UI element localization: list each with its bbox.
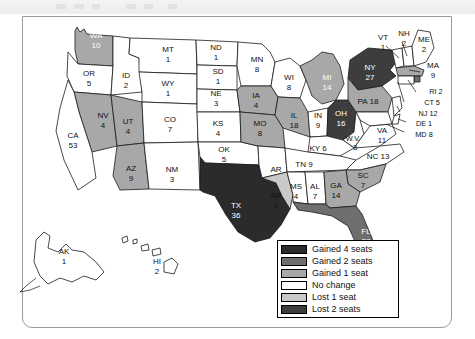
alaska-aleutians bbox=[20, 278, 40, 292]
label-NC: NC 13 bbox=[367, 152, 390, 161]
label-FL-code: FL bbox=[361, 227, 371, 236]
label-MA-code: MA bbox=[427, 61, 440, 70]
state-HI-i1[interactable] bbox=[122, 236, 128, 243]
state-HI-i3[interactable] bbox=[141, 244, 149, 251]
label-SD-code: SD bbox=[212, 67, 223, 76]
label-WV-value: 3 bbox=[353, 143, 357, 152]
state-CT[interactable] bbox=[398, 76, 414, 84]
label-IL-code: IL bbox=[291, 111, 298, 120]
legend-swatch bbox=[281, 269, 307, 278]
label-ME-code: ME bbox=[418, 35, 430, 44]
label-UT-code: UT bbox=[123, 117, 134, 126]
label-AR-code: AR bbox=[270, 191, 281, 200]
label-OR-code: OR bbox=[83, 69, 95, 78]
label-NV-value: 4 bbox=[101, 121, 106, 130]
label-WY-value: 1 bbox=[166, 89, 171, 98]
label-TX-code: TX bbox=[231, 201, 242, 210]
state-RI[interactable] bbox=[414, 76, 420, 82]
label-AK-code: AK bbox=[59, 247, 70, 256]
label-KS-code: KS bbox=[213, 119, 224, 128]
label-AL-value: 7 bbox=[313, 192, 318, 201]
label-AL-code: AL bbox=[310, 182, 320, 191]
label-NE-code: NE bbox=[210, 89, 221, 98]
legend-label: Lost 2 seats bbox=[312, 305, 361, 314]
us-apportionment-map: WA 10 OR 5 ID 2 MT 1 ND 1 SD 1 NE 3 WY 1… bbox=[0, 0, 475, 339]
label-MS-value: 4 bbox=[294, 192, 299, 201]
label-TN: TN 9 bbox=[295, 160, 313, 169]
label-MI-code: MI bbox=[323, 73, 332, 82]
state-MT[interactable] bbox=[129, 38, 197, 74]
label-TX-value: 36 bbox=[232, 211, 241, 220]
state-HI-i2[interactable] bbox=[133, 239, 137, 244]
label-IL-value: 18 bbox=[290, 121, 299, 130]
map-legend: Gained 4 seats Gained 2 seats Gained 1 s… bbox=[277, 240, 399, 318]
label-CA-code: CA bbox=[67, 131, 79, 140]
label-VA-value: 11 bbox=[378, 136, 387, 145]
label-VT-value: 1 bbox=[381, 43, 386, 52]
legend-label: Gained 1 seat bbox=[312, 269, 368, 278]
label-HI-value: 2 bbox=[155, 267, 160, 276]
label-KY: KY 6 bbox=[309, 144, 327, 153]
legend-swatch bbox=[281, 281, 307, 290]
label-AR-value: 4 bbox=[274, 201, 279, 210]
state-HI-i4[interactable] bbox=[152, 248, 161, 256]
label-OK-code: OK bbox=[218, 145, 230, 154]
label-ND-code: ND bbox=[210, 43, 222, 52]
legend-row[interactable]: Lost 2 seats bbox=[281, 303, 395, 315]
label-NH-code: NH bbox=[398, 29, 410, 38]
label-NM-value: 3 bbox=[170, 175, 175, 184]
label-AZ-value: 9 bbox=[129, 174, 134, 183]
label-AR2-code: AR bbox=[270, 165, 281, 174]
label-SC-code: SC bbox=[357, 171, 368, 180]
label-MO-code: MO bbox=[254, 119, 267, 128]
label-WA-value: 10 bbox=[92, 41, 101, 50]
label-DE: DE 1 bbox=[416, 119, 432, 128]
legend-swatch bbox=[281, 245, 307, 254]
label-NM-code: NM bbox=[166, 165, 179, 174]
label-IA-value: 4 bbox=[254, 101, 259, 110]
label-KS-value: 4 bbox=[216, 129, 221, 138]
label-MA-value: 9 bbox=[431, 71, 436, 80]
state-AK[interactable] bbox=[34, 232, 104, 284]
legend-row[interactable]: Gained 1 seat bbox=[281, 267, 395, 279]
legend-swatch bbox=[281, 305, 307, 314]
label-NV-code: NV bbox=[97, 111, 109, 120]
legend-label: Gained 2 seats bbox=[312, 257, 373, 266]
legend-label: Lost 1 seat bbox=[312, 293, 356, 302]
label-NY-code: NY bbox=[364, 63, 376, 72]
label-MN-code: MN bbox=[251, 55, 264, 64]
state-MA[interactable] bbox=[396, 66, 424, 76]
label-PA: PA 18 bbox=[358, 97, 379, 106]
label-SC-value: 7 bbox=[361, 181, 366, 190]
legend-row[interactable]: No change bbox=[281, 279, 395, 291]
label-GA-value: 14 bbox=[332, 191, 341, 200]
label-VT-code: VT bbox=[378, 33, 388, 42]
legend-row[interactable]: Gained 2 seats bbox=[281, 255, 395, 267]
label-MT-value: 1 bbox=[166, 55, 171, 64]
state-HI-main[interactable] bbox=[164, 258, 178, 274]
legend-row[interactable]: Gained 4 seats bbox=[281, 243, 395, 255]
label-ME-value: 2 bbox=[422, 45, 427, 54]
label-WI-value: 8 bbox=[287, 83, 292, 92]
label-IN-value: 9 bbox=[316, 121, 321, 130]
label-WA-code: WA bbox=[90, 31, 103, 40]
label-MT-code: MT bbox=[162, 45, 174, 54]
legend-label: Gained 4 seats bbox=[312, 245, 373, 254]
label-RI: RI 2 bbox=[429, 87, 442, 96]
legend-row[interactable]: Lost 1 seat bbox=[281, 291, 395, 303]
label-HI-code: HI bbox=[153, 257, 161, 266]
label-MD: MD 8 bbox=[415, 130, 432, 139]
label-MS-code: MS bbox=[290, 182, 302, 191]
leader-DE bbox=[398, 119, 406, 122]
label-AK-value: 1 bbox=[62, 257, 67, 266]
label-ID-code: ID bbox=[122, 71, 130, 80]
label-OH-code: OH bbox=[335, 109, 347, 118]
label-VA-code: VA bbox=[377, 126, 388, 135]
label-AZ-code: AZ bbox=[126, 164, 136, 173]
label-CO-code: CO bbox=[164, 115, 176, 124]
label-NY-value: 27 bbox=[366, 73, 375, 82]
label-MN-value: 8 bbox=[255, 65, 260, 74]
label-MO-value: 8 bbox=[258, 129, 263, 138]
label-WI-code: WI bbox=[284, 73, 294, 82]
label-WV-code: W.V. bbox=[346, 134, 361, 143]
